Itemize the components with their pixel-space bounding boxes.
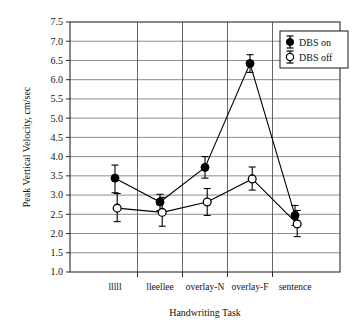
y-tick-label: 6.0 xyxy=(51,74,64,85)
peak-vertical-velocity-chart: 7.57.06.56.05.55.04.54.03.53.02.52.01.51… xyxy=(0,0,363,324)
data-point-marker xyxy=(156,198,164,206)
x-category-label: sentence xyxy=(279,282,312,292)
figure-container: 7.57.06.56.05.55.04.54.03.53.02.52.01.51… xyxy=(0,0,363,324)
data-point-marker xyxy=(246,60,254,68)
data-point-marker xyxy=(203,198,211,206)
y-tick-label: 7.5 xyxy=(51,16,64,27)
data-point-marker xyxy=(248,175,256,183)
y-axis-title: Peak Vertical Velocity, cm/sec xyxy=(21,86,32,207)
legend: DBS on DBS off xyxy=(280,31,348,68)
y-tick-label: 1.0 xyxy=(51,266,64,277)
y-tick-label: 3.5 xyxy=(51,170,64,181)
y-tick-label: 2.0 xyxy=(51,228,64,239)
data-point-marker xyxy=(158,208,166,216)
y-tick-label: 6.5 xyxy=(51,55,64,66)
y-tick-label: 7.0 xyxy=(51,36,64,47)
y-tick-label: 4.5 xyxy=(51,132,64,143)
x-category-label: lleellee xyxy=(146,282,173,292)
legend-label-dbs-on: DBS on xyxy=(299,37,331,48)
data-point-marker xyxy=(293,220,301,228)
y-tick-label: 3.0 xyxy=(51,189,64,200)
x-category-label: overlay-F xyxy=(232,282,269,292)
y-tick-label: 5.5 xyxy=(51,93,64,104)
x-category-label: overlay-N xyxy=(186,282,225,292)
y-tick-label: 4.0 xyxy=(51,151,64,162)
y-tick-label: 2.5 xyxy=(51,209,64,220)
y-tick-label: 1.5 xyxy=(51,247,64,258)
x-category-label: lllll xyxy=(108,282,122,292)
legend-label-dbs-off: DBS off xyxy=(299,52,333,63)
y-tick-label: 5.0 xyxy=(51,113,64,124)
data-point-marker xyxy=(113,204,121,212)
data-point-marker xyxy=(111,174,119,182)
x-axis-title: Handwriting Task xyxy=(169,307,241,318)
data-point-marker xyxy=(201,163,209,171)
